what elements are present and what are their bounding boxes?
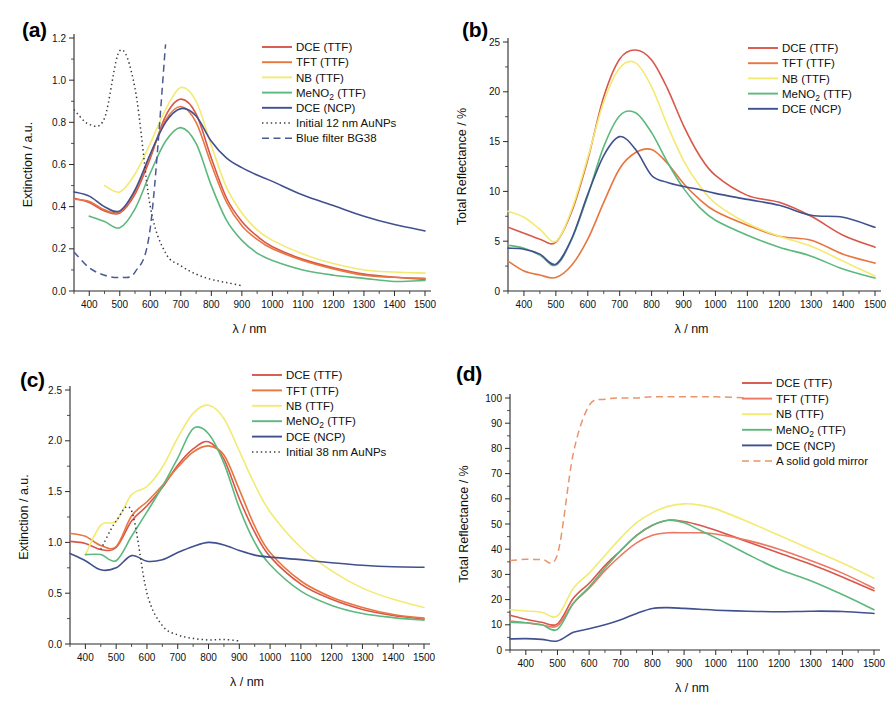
legend-label: MeNO2 (TTF) <box>782 88 852 103</box>
x-tick-label: 1400 <box>832 299 855 310</box>
legend-label: TFT (TTF) <box>286 385 339 397</box>
series-line <box>508 149 875 278</box>
legend-label: Initial 38 nm AuNPs <box>286 446 387 458</box>
x-axis-label: λ / nm <box>232 322 266 336</box>
y-tick-label: 2.0 <box>48 435 62 446</box>
x-tick-label: 800 <box>200 652 217 663</box>
series-line <box>85 405 424 607</box>
x-tick-label: 1000 <box>704 299 727 310</box>
panel-b: (b) 051015202540050060070080090010001100… <box>446 0 892 354</box>
x-tick-label: 1200 <box>321 652 344 663</box>
legend-label: TFT (TTF) <box>296 56 349 68</box>
y-tick-label: 1.0 <box>52 75 66 86</box>
series-line <box>70 542 424 570</box>
x-tick-label: 1500 <box>414 299 437 310</box>
x-tick-label: 400 <box>77 652 94 663</box>
x-tick-label: 900 <box>231 652 248 663</box>
legend-label: DCE (NCP) <box>782 103 842 115</box>
series-line <box>74 50 242 286</box>
legend-label: TFT (TTF) <box>776 393 829 405</box>
x-tick-label: 1300 <box>351 652 374 663</box>
legend-label: MeNO2 (TTF) <box>296 87 366 102</box>
legend-label: DCE (NCP) <box>296 102 356 114</box>
panel-b-plot: 0510152025400500600700800900100011001200… <box>446 0 892 354</box>
x-tick-label: 400 <box>81 299 98 310</box>
x-tick-label: 700 <box>612 658 629 669</box>
y-tick-label: 1.0 <box>48 537 62 548</box>
x-tick-label: 400 <box>516 299 533 310</box>
y-tick-label: 0.0 <box>52 286 66 297</box>
y-tick-label: 1.5 <box>48 486 62 497</box>
x-tick-label: 1400 <box>382 652 405 663</box>
legend-label: DCE (NCP) <box>286 431 346 443</box>
y-tick-label: 0.2 <box>52 243 66 254</box>
panel-c: (c) 0.00.51.01.52.02.5400500600700800900… <box>0 354 446 708</box>
legend-label: NB (TTF) <box>296 72 344 84</box>
x-tick-label: 600 <box>142 299 159 310</box>
x-tick-label: 1100 <box>292 299 314 310</box>
y-tick-label: 80 <box>491 443 503 454</box>
y-axis-label: Total Reflectance / % <box>455 108 469 225</box>
legend-label: Blue filter BG38 <box>296 132 377 144</box>
legend-label: NB (TTF) <box>776 408 824 420</box>
y-tick-label: 5 <box>494 236 500 247</box>
x-axis-label: λ / nm <box>230 675 264 689</box>
x-tick-label: 1100 <box>737 658 759 669</box>
x-tick-label: 400 <box>517 658 534 669</box>
y-tick-label: 0.8 <box>52 117 66 128</box>
x-tick-label: 1200 <box>768 299 791 310</box>
y-tick-label: 0.6 <box>52 159 66 170</box>
y-tick-label: 1.2 <box>52 33 66 44</box>
y-tick-label: 15 <box>489 136 501 147</box>
x-tick-label: 700 <box>611 299 628 310</box>
x-tick-label: 1200 <box>322 299 345 310</box>
x-tick-label: 800 <box>203 299 220 310</box>
series-line <box>74 44 166 277</box>
x-tick-label: 900 <box>676 658 693 669</box>
x-tick-label: 1100 <box>737 299 759 310</box>
legend-label: TFT (TTF) <box>782 57 835 69</box>
y-tick-label: 0 <box>494 286 500 297</box>
series-line <box>101 507 240 641</box>
y-tick-label: 25 <box>489 37 501 48</box>
legend-label: DCE (TTF) <box>286 369 342 381</box>
y-tick-label: 10 <box>491 619 503 630</box>
y-axis-label: Total Reflectance / % <box>457 465 471 582</box>
x-tick-label: 1400 <box>383 299 406 310</box>
x-tick-label: 500 <box>111 299 128 310</box>
legend-label: DCE (TTF) <box>782 42 838 54</box>
y-tick-label: 2.5 <box>48 385 62 396</box>
x-tick-label: 1500 <box>413 652 436 663</box>
x-tick-label: 1200 <box>768 658 791 669</box>
x-tick-label: 1000 <box>259 652 282 663</box>
legend-label: DCE (TTF) <box>296 41 352 53</box>
x-tick-label: 500 <box>548 299 565 310</box>
series-line <box>510 397 747 564</box>
legend-label: MeNO2 (TTF) <box>286 415 356 430</box>
x-tick-label: 1000 <box>705 658 728 669</box>
y-tick-label: 20 <box>489 86 501 97</box>
x-tick-label: 1300 <box>800 658 823 669</box>
series-line <box>508 111 875 278</box>
y-tick-label: 100 <box>485 393 502 404</box>
x-tick-label: 500 <box>549 658 566 669</box>
legend-label: DCE (NCP) <box>776 440 836 452</box>
panel-c-plot: 0.00.51.01.52.02.54005006007008009001000… <box>0 354 446 708</box>
panel-a-plot: 0.00.20.40.60.81.01.24005006007008009001… <box>0 0 446 354</box>
legend-label: Initial 12 nm AuNPs <box>296 117 397 129</box>
x-tick-label: 1100 <box>290 652 312 663</box>
y-tick-label: 40 <box>491 544 503 555</box>
panel-a: (a) 0.00.20.40.60.81.01.2400500600700800… <box>0 0 446 354</box>
y-tick-label: 30 <box>491 569 503 580</box>
y-tick-label: 10 <box>489 186 501 197</box>
panel-d-plot: 0102030405060708090100400500600700800900… <box>446 354 892 708</box>
legend-label: MeNO2 (TTF) <box>776 424 846 439</box>
legend-label: DCE (TTF) <box>776 377 832 389</box>
series-line <box>510 504 874 617</box>
x-tick-label: 700 <box>169 652 186 663</box>
panel-d: (d) 010203040506070809010040050060070080… <box>446 354 892 708</box>
x-tick-label: 1500 <box>864 299 887 310</box>
x-tick-label: 500 <box>108 652 125 663</box>
x-tick-label: 600 <box>139 652 156 663</box>
y-tick-label: 0.4 <box>52 201 66 212</box>
